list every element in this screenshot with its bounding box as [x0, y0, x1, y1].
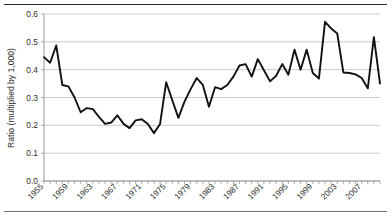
y-tick-label-0.3: 0.3: [26, 93, 38, 103]
x-tick-label-1979: 1979: [173, 182, 193, 202]
x-tick-label-1963: 1963: [75, 182, 95, 202]
y-tick-label-0.5: 0.5: [26, 37, 38, 47]
line-chart-svg: 0.00.10.20.30.40.50.6 195519591963196719…: [0, 0, 392, 219]
x-tick-label-2007: 2007: [344, 182, 364, 202]
x-tick-label-1983: 1983: [197, 182, 217, 202]
y-tick-label-0.2: 0.2: [26, 120, 38, 130]
y-tick-label-0.6: 0.6: [26, 9, 38, 19]
plot-area-wrapper: 0.00.10.20.30.40.50.6 195519591963196719…: [0, 0, 392, 219]
gridlines-group: [41, 14, 380, 181]
y-axis-title-group: Ratio (multiplied by 1,000): [6, 48, 16, 148]
y-tick-labels-group: 0.00.10.20.30.40.50.6: [26, 9, 38, 186]
x-tick-label-1999: 1999: [295, 182, 315, 202]
x-tick-label-1959: 1959: [51, 182, 71, 202]
y-tick-label-0.1: 0.1: [26, 148, 38, 158]
x-tick-label-1987: 1987: [222, 182, 242, 202]
x-tick-label-1971: 1971: [124, 182, 144, 202]
y-axis-title: Ratio (multiplied by 1,000): [6, 48, 16, 148]
x-tick-label-2003: 2003: [319, 182, 339, 202]
y-tick-label-0.4: 0.4: [26, 65, 38, 75]
x-tick-labels-group: 1955195919631967197119751979198319871991…: [26, 182, 363, 202]
x-tick-label-1995: 1995: [271, 182, 291, 202]
data-series-group: [44, 22, 380, 133]
x-tick-label-1967: 1967: [99, 182, 119, 202]
x-tick-label-1991: 1991: [246, 182, 266, 202]
chart-figure: 0.00.10.20.30.40.50.6 195519591963196719…: [0, 0, 392, 219]
x-tick-label-1975: 1975: [148, 182, 168, 202]
data-line-ratio: [44, 22, 380, 133]
